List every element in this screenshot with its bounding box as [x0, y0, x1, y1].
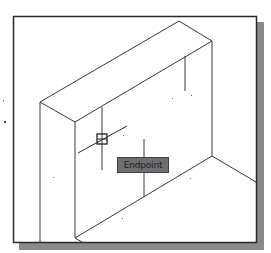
- drawing-canvas[interactable]: [0, 0, 271, 253]
- viewport-frame: [14, 17, 257, 243]
- osnap-tooltip: Endpoint: [117, 157, 169, 173]
